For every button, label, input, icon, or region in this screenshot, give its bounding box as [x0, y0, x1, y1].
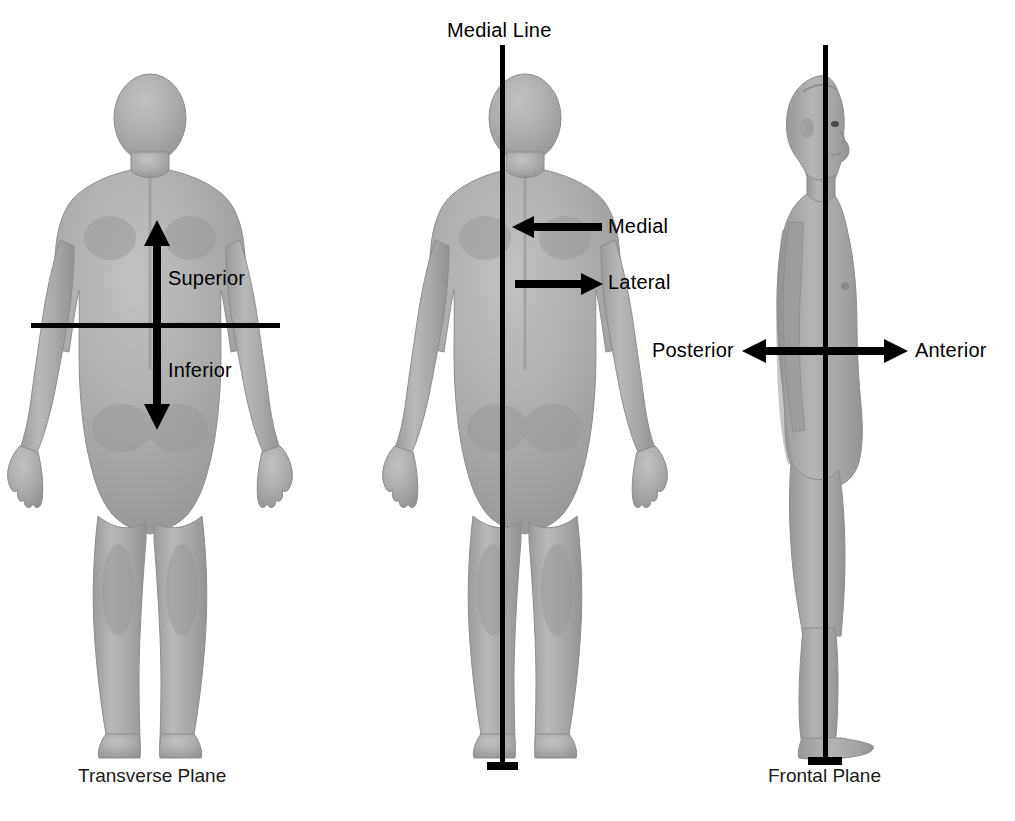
transverse-plane-caption: Transverse Plane [78, 766, 226, 785]
medial-arrow [512, 215, 602, 239]
medial-label: Medial [608, 216, 668, 236]
figure-posterior-medial [375, 70, 675, 760]
medial-line-label: Medial Line [447, 20, 552, 40]
lateral-label: Lateral [608, 272, 671, 292]
inferior-label: Inferior [168, 360, 232, 380]
frontal-plane-caption: Frontal Plane [768, 766, 881, 785]
posterior-anterior-arrow [742, 338, 908, 364]
anterior-label: Anterior [915, 340, 987, 360]
figure-lateral-frontal [745, 70, 925, 760]
frontal-plane-line [823, 45, 828, 765]
frontal-plane-base-cap [808, 757, 842, 765]
medial-plane-line [500, 45, 505, 770]
diagram-canvas: Superior Inferior Transverse Plane [0, 0, 1015, 821]
superior-label: Superior [168, 268, 245, 288]
medial-plane-base-cap [487, 762, 518, 770]
lateral-arrow [515, 272, 603, 296]
posterior-label: Posterior [652, 340, 734, 360]
